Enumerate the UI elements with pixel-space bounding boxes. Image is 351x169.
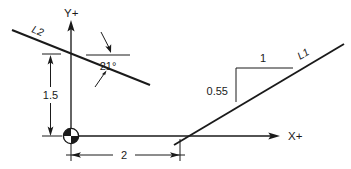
technical-diagram: Y+ X+ L2 L1 21° 1.5 2 0.55 1 bbox=[0, 0, 351, 169]
angle-leader-lower bbox=[95, 71, 107, 88]
angle-label: 21° bbox=[100, 60, 117, 72]
line-label-L2: L2 bbox=[30, 23, 45, 39]
vertical-dimension-label: 1.5 bbox=[43, 89, 58, 101]
geometry-canvas: Y+ X+ L2 L1 21° 1.5 2 0.55 1 bbox=[0, 0, 351, 169]
origin-marker bbox=[63, 128, 78, 143]
y-axis-label: Y+ bbox=[64, 7, 79, 19]
line-label-L1: L1 bbox=[295, 45, 311, 61]
line-L2 bbox=[12, 30, 150, 85]
horizontal-dimension-label: 2 bbox=[121, 149, 127, 161]
angle-leader-upper bbox=[101, 32, 111, 53]
angle-leader-lower-line bbox=[95, 74, 104, 87]
slope-triangle bbox=[236, 68, 293, 102]
x-axis bbox=[71, 133, 280, 140]
slope-run-label: 1 bbox=[260, 52, 266, 64]
y-axis bbox=[67, 20, 74, 136]
angle-leader-upper-line bbox=[101, 32, 110, 49]
x-axis-label: X+ bbox=[288, 130, 303, 142]
slope-rise-label: 0.55 bbox=[207, 85, 228, 97]
